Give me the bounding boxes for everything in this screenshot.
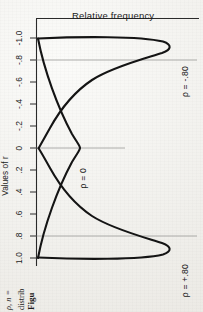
tick-label-zero: 0 bbox=[14, 146, 24, 151]
figure-root: Relative frequency -1.0 -.8 -.6 -.4 -.2 … bbox=[0, 0, 203, 312]
tick-label-neg-0-4: -.4 bbox=[14, 99, 24, 109]
tick-label-pos-0-4: .4 bbox=[14, 188, 24, 195]
axis-label-values-of-r: Values of r bbox=[1, 156, 10, 196]
tick-label-pos-0-8: .8 bbox=[14, 232, 24, 239]
tick-label-pos-0-2: .2 bbox=[14, 166, 24, 173]
tick-label-pos-0-6: .6 bbox=[14, 210, 24, 217]
tick-label-neg-0-6: -.6 bbox=[14, 77, 24, 87]
caption-line-3: ρ, n = bbox=[4, 290, 13, 310]
distribution-plot bbox=[0, 0, 203, 312]
tick-label-neg-1-0: -1.0 bbox=[14, 31, 24, 46]
annotation-rho-negative: ρ = -.80 bbox=[180, 66, 190, 97]
tick-label-neg-0-2: -.2 bbox=[14, 121, 24, 131]
chart-title: Relative frequency bbox=[72, 10, 154, 21]
tick-label-neg-0-8: -.8 bbox=[14, 55, 24, 65]
curve-rho-negative bbox=[38, 37, 170, 148]
tick-label-pos-1-0: 1.0 bbox=[14, 252, 24, 264]
caption-line-2: distrib bbox=[17, 289, 26, 310]
gridlines bbox=[37, 60, 198, 236]
annotation-rho-positive: ρ = +.80 bbox=[180, 264, 190, 297]
annotation-rho-zero: ρ = 0 bbox=[78, 168, 88, 188]
axis-ticks bbox=[30, 38, 37, 258]
curve-rho-positive bbox=[38, 148, 170, 259]
caption-figure-number: Figu bbox=[26, 292, 36, 310]
